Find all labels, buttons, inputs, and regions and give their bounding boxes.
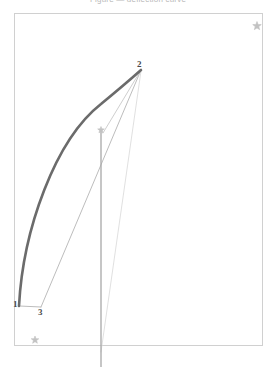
star-marker-top-right [253,22,262,30]
chord-line-3-2 [41,70,141,307]
point-label-3: 3 [38,308,43,317]
faint-chord-line [101,71,141,352]
star-marker-bottom-left [31,336,39,343]
point-label-2: 2 [137,60,142,69]
deflected-beam-curve [19,70,141,306]
star-marker-layer [31,22,261,344]
figure-canvas: Figure — deflection curve 1 3 2 [0,0,276,367]
point-label-1: 1 [13,300,18,309]
chord-line-star-2 [103,70,141,133]
